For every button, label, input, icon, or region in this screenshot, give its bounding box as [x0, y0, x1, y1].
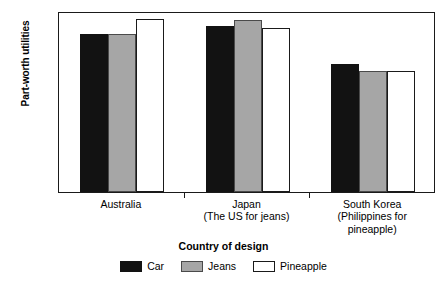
legend-label: Car	[147, 261, 164, 272]
bar-australia-pineapple	[136, 19, 164, 192]
legend-label: Jeans	[208, 261, 236, 272]
group-sublabel-text: (The US for jeans)	[184, 210, 310, 222]
bar-japan-pineapple	[262, 28, 290, 192]
bar-australia-car	[80, 34, 108, 192]
legend-item-car: Car	[120, 261, 164, 272]
legend-item-pineapple: Pineapple	[253, 261, 327, 272]
group-label-text: South Korea	[343, 198, 401, 210]
chart-legend: CarJeansPineapple	[0, 261, 447, 272]
legend-label: Pineapple	[280, 261, 327, 272]
group-label-text: Japan	[232, 198, 261, 210]
plot-area	[58, 12, 435, 193]
legend-swatch-pineapple-icon	[253, 261, 275, 272]
legend-item-jeans: Jeans	[181, 261, 236, 272]
legend-swatch-car-icon	[120, 261, 142, 272]
bar-australia-jeans	[108, 34, 136, 192]
bar-south-korea-jeans	[359, 71, 387, 192]
y-axis-title: Part-worth utilities	[20, 0, 31, 139]
x-axis-group-label: South Korea(Philippines forpineapple)	[309, 198, 435, 235]
bar-chart: Part-worth utilities 00.20.40.60.81.01.2…	[0, 0, 447, 284]
x-axis-group-label: Japan(The US for jeans)	[184, 198, 310, 223]
bars-layer	[59, 13, 434, 192]
bar-japan-car	[206, 26, 234, 192]
x-axis-group-label: Australia	[58, 198, 184, 210]
group-label-text: Australia	[100, 198, 141, 210]
legend-swatch-jeans-icon	[181, 261, 203, 272]
group-sublabel-text: (Philippines for	[309, 210, 435, 222]
bar-south-korea-car	[331, 64, 359, 192]
x-axis-title: Country of design	[0, 240, 447, 252]
bar-japan-jeans	[234, 20, 262, 192]
bar-south-korea-pineapple	[387, 71, 415, 192]
group-sublabel-text: pineapple)	[309, 223, 435, 235]
